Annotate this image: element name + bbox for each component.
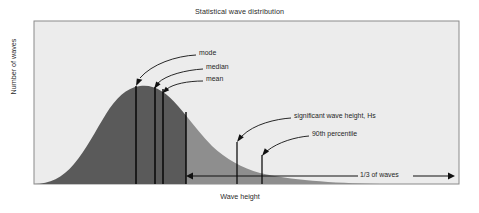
annotation-label-mean: mean: [206, 75, 223, 82]
annotation-label-median: median: [206, 63, 229, 70]
annotation-label-ninetieth-percentile: 90th percentile: [312, 130, 357, 137]
plot-area: [0, 0, 479, 213]
annotation-label-mode: mode: [199, 49, 216, 56]
figure-container: Statistical wave distribution Number of …: [0, 0, 479, 213]
annotation-label-significant-wave-height: significant wave height, Hs: [294, 112, 376, 119]
annotation-label-one-third-of-waves: 1/3 of waves: [360, 171, 399, 178]
